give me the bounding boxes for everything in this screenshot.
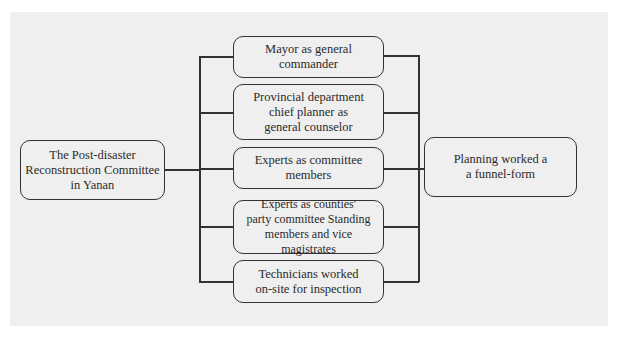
node-funnel: Planning worked a a funnel-form [424, 137, 577, 197]
node-mayor: Mayor as general commander [233, 36, 384, 78]
connector-technicians-to-right-spine [384, 281, 419, 283]
node-experts-committee: Experts as committee members [233, 147, 384, 189]
node-technicians: Technicians worked on-site for inspectio… [233, 260, 384, 303]
connector-experts-counties-to-right-spine [384, 226, 419, 228]
node-chief-planner: Provincial department chief planner as g… [233, 84, 384, 140]
connector-spine-to-mayor [199, 56, 233, 58]
node-experts-counties: Experts as counties' party committee Sta… [233, 200, 384, 254]
connector-chief-planner-to-right-spine [384, 112, 419, 114]
connector-spine-to-experts-committee [199, 168, 233, 170]
connector-spine-to-technicians [199, 281, 233, 283]
connector-spine-to-chief-planner [199, 112, 233, 114]
connector-mayor-to-right-spine [384, 55, 419, 57]
connector-spine-to-experts-counties [199, 226, 233, 228]
connector-committee-to-spine [165, 169, 199, 171]
node-committee: The Post-disaster Reconstruction Committ… [20, 140, 165, 200]
connector-experts-committee-to-right-spine [384, 168, 419, 170]
